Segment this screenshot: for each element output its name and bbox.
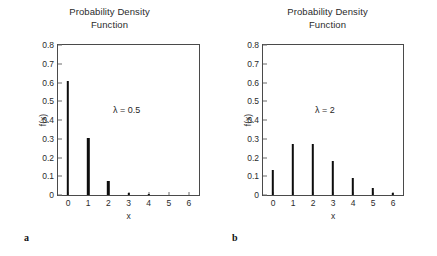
- chart-title: Probability Density Function: [0, 6, 219, 31]
- y-tick-mark: [263, 45, 267, 46]
- y-tick-label: 0.5: [42, 96, 54, 106]
- bar: [67, 81, 69, 195]
- y-tick-label: 0.1: [42, 171, 54, 181]
- y-tick-mark: [58, 157, 62, 158]
- y-tick-mark: [58, 138, 62, 139]
- chart-title: Probability Density Function: [218, 6, 437, 31]
- x-tick-label: 0: [271, 198, 276, 208]
- x-tick-label: 2: [106, 198, 111, 208]
- y-tick-mark: [58, 101, 62, 102]
- y-tick-label: 0.2: [247, 153, 259, 163]
- y-tick-label: 0: [254, 190, 259, 200]
- x-tick-label: 1: [291, 198, 296, 208]
- bar: [272, 170, 274, 195]
- y-tick-mark: [58, 176, 62, 177]
- y-tick-mark: [263, 195, 267, 196]
- y-tick-mark: [263, 120, 267, 121]
- y-tick-mark: [263, 82, 267, 83]
- x-tick-label: 0: [66, 198, 71, 208]
- y-tick-mark: [263, 157, 267, 158]
- y-tick-label: 0.4: [247, 115, 259, 125]
- y-tick-mark: [263, 138, 267, 139]
- plot-area-a: f(x) x λ = 0.5 00.10.20.30.40.50.60.70.8…: [57, 44, 200, 196]
- y-tick-label: 0.2: [42, 153, 54, 163]
- lambda-annotation: λ = 2: [315, 105, 335, 115]
- bar: [87, 138, 89, 195]
- lambda-annotation: λ = 0.5: [113, 105, 140, 115]
- bar: [312, 144, 314, 195]
- bar: [392, 193, 394, 195]
- y-tick-label: 0.8: [42, 40, 54, 50]
- y-tick-mark: [263, 63, 267, 64]
- bar: [332, 161, 334, 195]
- bar: [147, 194, 149, 195]
- x-tick-label: 5: [371, 198, 376, 208]
- y-tick-label: 0: [49, 190, 54, 200]
- x-tick-label: 1: [86, 198, 91, 208]
- bar: [352, 178, 354, 195]
- y-tick-mark: [58, 120, 62, 121]
- y-tick-label: 0.4: [42, 115, 54, 125]
- y-tick-label: 0.8: [247, 40, 259, 50]
- x-tick-label: 5: [166, 198, 171, 208]
- y-tick-label: 0.3: [247, 134, 259, 144]
- y-tick-label: 0.1: [247, 171, 259, 181]
- y-tick-mark: [58, 63, 62, 64]
- x-tick-label: 3: [126, 198, 131, 208]
- x-tick-label: 2: [311, 198, 316, 208]
- y-tick-mark: [263, 101, 267, 102]
- x-tick-label: 4: [351, 198, 356, 208]
- bar: [292, 144, 294, 195]
- bar: [127, 193, 129, 195]
- y-tick-mark: [58, 195, 62, 196]
- y-tick-mark: [58, 82, 62, 83]
- bar: [107, 181, 109, 195]
- y-tick-label: 0.7: [42, 59, 54, 69]
- figure-poisson-pmf-panels: Probability Density Function f(x) x λ = …: [0, 0, 437, 256]
- x-tick-label: 6: [187, 198, 192, 208]
- y-tick-label: 0.5: [247, 96, 259, 106]
- y-tick-label: 0.7: [247, 59, 259, 69]
- x-tick-label: 3: [331, 198, 336, 208]
- x-axis-label: x: [263, 211, 403, 221]
- x-axis-label: x: [58, 211, 199, 221]
- panel-letter-a: a: [24, 232, 29, 243]
- panel-letter-b: b: [232, 232, 238, 243]
- panel-a: Probability Density Function f(x) x λ = …: [0, 0, 219, 256]
- y-tick-label: 0.6: [247, 78, 259, 88]
- bar: [372, 188, 374, 195]
- x-tick-label: 6: [391, 198, 396, 208]
- y-tick-mark: [263, 176, 267, 177]
- x-tick-label: 4: [146, 198, 151, 208]
- x-tick-mark: [188, 192, 189, 196]
- y-tick-label: 0.6: [42, 78, 54, 88]
- y-tick-mark: [58, 45, 62, 46]
- panel-b: Probability Density Function f(x) x λ = …: [218, 0, 437, 256]
- y-tick-label: 0.3: [42, 134, 54, 144]
- plot-area-b: f(x) x λ = 2 00.10.20.30.40.50.60.70.801…: [262, 44, 404, 196]
- x-tick-mark: [168, 192, 169, 196]
